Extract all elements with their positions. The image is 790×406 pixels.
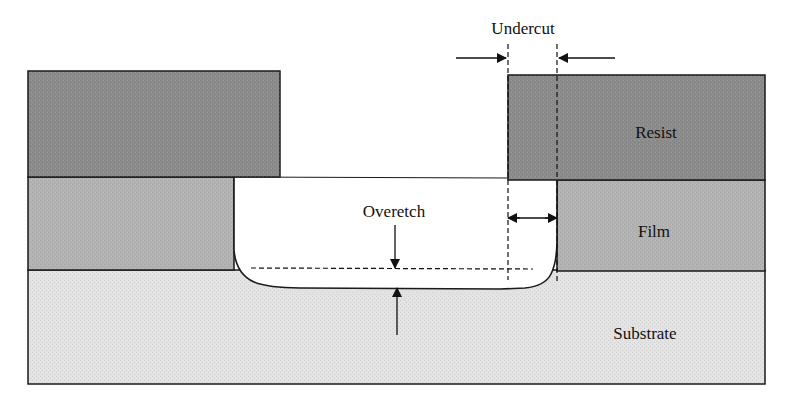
etch-profile-diagram: Undercut Overetch Resist Film Substrate	[0, 0, 790, 406]
substrate-label: Substrate	[613, 324, 676, 343]
overetch-label: Overetch	[363, 202, 426, 221]
film-label: Film	[638, 222, 670, 241]
film-layer-left	[28, 177, 234, 270]
undercut-label: Undercut	[491, 19, 555, 38]
resist-layer-left	[28, 71, 280, 177]
resist-label: Resist	[635, 123, 677, 142]
